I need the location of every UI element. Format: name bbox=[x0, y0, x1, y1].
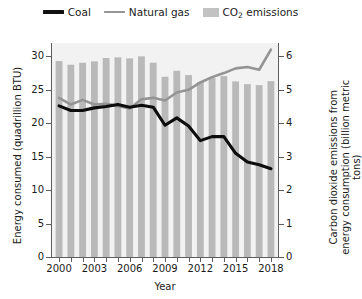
y-axis-left-tick bbox=[46, 190, 51, 191]
x-axis-tick bbox=[71, 258, 72, 262]
x-axis-tick bbox=[142, 258, 143, 262]
y-axis-left-tick-label: 20 bbox=[14, 117, 44, 128]
x-axis-tick bbox=[83, 258, 84, 262]
y-axis-right-tick-label: 2 bbox=[286, 184, 306, 195]
legend-label-co2: CO2 emissions bbox=[223, 7, 299, 18]
co2-bar bbox=[103, 58, 110, 257]
y-axis-right-tick-label: 6 bbox=[286, 50, 306, 61]
y-axis-left-tick bbox=[46, 157, 51, 158]
y-axis-right-tick bbox=[279, 190, 284, 191]
x-axis-tick bbox=[271, 258, 272, 262]
x-axis-tick-label: 2015 bbox=[219, 263, 253, 274]
x-axis-title: Year bbox=[45, 281, 285, 292]
y-axis-left-tick-label: 30 bbox=[14, 50, 44, 61]
x-axis-tick bbox=[94, 258, 95, 262]
y-axis-right-tick bbox=[279, 56, 284, 57]
legend-swatch-natural-gas-line-icon bbox=[104, 11, 125, 14]
x-axis-tick bbox=[106, 258, 107, 262]
y-axis-right-tick bbox=[279, 224, 284, 225]
co2-bar bbox=[91, 61, 98, 257]
x-axis-tick bbox=[236, 258, 237, 262]
co2-bar bbox=[185, 75, 192, 257]
x-axis-tick bbox=[165, 258, 166, 262]
x-axis-tick bbox=[59, 258, 60, 262]
x-axis-tick bbox=[177, 258, 178, 262]
y-axis-left-tick bbox=[46, 123, 51, 124]
y-axis-right-tick bbox=[279, 157, 284, 158]
y-axis-right-line bbox=[278, 43, 279, 258]
y-axis-right-title-line1: Carbon dioxide emissions from bbox=[328, 67, 340, 267]
y-axis-right-tick-label: 4 bbox=[286, 117, 306, 128]
y-axis-left-line bbox=[51, 43, 52, 258]
y-axis-left-tick bbox=[46, 90, 51, 91]
y-axis-right-tick bbox=[279, 123, 284, 124]
y-axis-left-tick-label: 15 bbox=[14, 151, 44, 162]
co2-bar bbox=[197, 82, 204, 257]
co2-bar bbox=[162, 77, 169, 257]
y-axis-left-tick bbox=[46, 56, 51, 57]
y-axis-left-tick-label: 25 bbox=[14, 84, 44, 95]
legend-label-co2-subscript: 2 bbox=[238, 11, 243, 20]
co2-bar bbox=[126, 58, 133, 257]
co2-bar bbox=[209, 78, 216, 257]
co2-bar bbox=[244, 84, 251, 257]
co2-bar bbox=[67, 65, 74, 257]
x-axis-tick bbox=[153, 258, 154, 262]
legend-swatch-coal-line-icon bbox=[43, 10, 64, 13]
x-axis-tick-label: 2012 bbox=[183, 263, 217, 274]
co2-bar bbox=[150, 63, 157, 257]
co2-bar bbox=[232, 81, 239, 257]
legend-label-co2-tail: emissions bbox=[243, 6, 298, 18]
x-axis-tick bbox=[130, 258, 131, 262]
x-axis-tick bbox=[224, 258, 225, 262]
co2-bar bbox=[220, 76, 227, 257]
co2-bar bbox=[56, 61, 63, 257]
plot-area bbox=[52, 43, 278, 257]
legend-swatch-co2-bar-icon bbox=[203, 8, 219, 17]
x-axis-tick bbox=[189, 258, 190, 262]
co2-bar bbox=[173, 71, 180, 257]
y-axis-right-tick-label: 3 bbox=[286, 151, 306, 162]
legend-label-coal: Coal bbox=[68, 7, 91, 18]
x-axis-tick-label: 2006 bbox=[113, 263, 147, 274]
legend-item-natural-gas: Natural gas bbox=[104, 7, 190, 18]
x-axis-tick-label: 2000 bbox=[42, 263, 76, 274]
co2-bar bbox=[256, 85, 263, 257]
y-axis-right-tick-label: 0 bbox=[286, 251, 306, 262]
y-axis-left-tick-label: 5 bbox=[14, 218, 44, 229]
y-axis-left-tick bbox=[46, 224, 51, 225]
y-axis-right-tick bbox=[279, 257, 284, 258]
chart-legend: Coal Natural gas CO2 emissions bbox=[0, 2, 341, 22]
y-axis-right-title: Carbon dioxide emissions fromenergy cons… bbox=[328, 67, 362, 267]
y-axis-right-tick-label: 1 bbox=[286, 218, 306, 229]
legend-item-coal: Coal bbox=[43, 7, 91, 18]
plot-svg bbox=[52, 43, 278, 257]
x-axis-tick bbox=[259, 258, 260, 262]
y-axis-left-tick-label: 10 bbox=[14, 184, 44, 195]
x-axis-tick-label: 2009 bbox=[148, 263, 182, 274]
co2-bar bbox=[115, 57, 122, 257]
y-axis-right-tick-label: 5 bbox=[286, 84, 306, 95]
x-axis-tick-label: 2003 bbox=[77, 263, 111, 274]
co2-bar bbox=[79, 63, 86, 257]
x-axis-tick bbox=[212, 258, 213, 262]
x-axis-tick bbox=[118, 258, 119, 262]
co2-bar bbox=[138, 56, 145, 257]
x-axis-tick bbox=[247, 258, 248, 262]
y-axis-right-tick bbox=[279, 90, 284, 91]
y-axis-right-title-line2: energy consumption (billion metric tons) bbox=[339, 67, 362, 267]
x-axis-tick-label: 2018 bbox=[254, 263, 288, 274]
legend-label-natural-gas: Natural gas bbox=[129, 7, 190, 18]
x-axis-tick bbox=[200, 258, 201, 262]
y-axis-left-tick-label: 0 bbox=[14, 251, 44, 262]
legend-item-co2-emissions: CO2 emissions bbox=[203, 7, 299, 18]
y-axis-left-tick bbox=[46, 257, 51, 258]
legend-label-co2-main: CO bbox=[223, 6, 239, 18]
